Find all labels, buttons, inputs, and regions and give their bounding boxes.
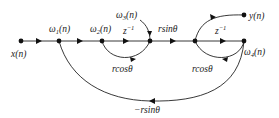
- node-y: [242, 13, 247, 18]
- label-w1: ω1(n): [49, 24, 70, 35]
- label-rcos-2: rcosθ: [192, 64, 213, 74]
- node-w1: [57, 39, 62, 44]
- node-x: [19, 39, 24, 44]
- neg-rsin-feedback: [59, 41, 244, 101]
- label-neg-rsin: −rsinθ: [134, 105, 160, 115]
- arrow-mid-w4: [220, 38, 226, 44]
- node-w3: [148, 39, 153, 44]
- node-w2: [100, 39, 105, 44]
- arrow-w3-mid: [170, 38, 176, 44]
- label-w2: ω2(n): [90, 24, 111, 35]
- label-w3: ω3(n): [116, 10, 137, 21]
- rcos-loop-2: [195, 41, 244, 58]
- node-mid: [193, 39, 198, 44]
- label-rsin: rsinθ: [158, 24, 178, 34]
- label-z-inv-2: z−1: [214, 24, 226, 36]
- arrow-w2-w3: [123, 38, 129, 44]
- arrow-neg-rsin: [149, 98, 155, 104]
- label-z-inv-1: z−1: [122, 24, 134, 36]
- label-w4: ω4(n): [244, 47, 265, 58]
- arrow-rcos-1: [130, 57, 136, 62]
- node-w4: [242, 39, 247, 44]
- signal-flow-graph: x(n) ω1(n) ω2(n) ω3(n) ω4(n) y(n) z−1 z−…: [0, 0, 279, 118]
- arrow-w1-w2: [77, 38, 83, 44]
- label-rcos-1: rcosθ: [112, 64, 133, 74]
- rcos-loop-1: [102, 41, 150, 58]
- label-y: y(n): [248, 11, 264, 22]
- arrow-x-w1: [36, 38, 42, 44]
- w3-input-edge: [140, 20, 150, 41]
- label-x: x(n): [10, 49, 26, 60]
